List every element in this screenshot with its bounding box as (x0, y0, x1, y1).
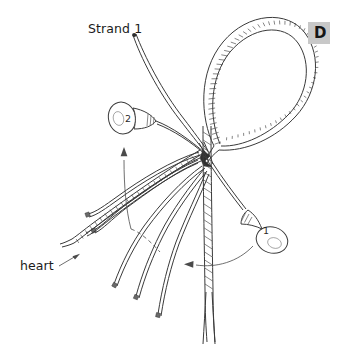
panel-letter-text: D (314, 24, 326, 42)
strand-e-end (156, 313, 161, 318)
strand-one-label: Strand 1 (88, 21, 142, 36)
figure-panel-d: 2 1 (0, 0, 345, 349)
anchor-1-number: 1 (263, 225, 269, 236)
anchor-2-number: 2 (125, 113, 131, 124)
panel-letter-badge: D (308, 22, 330, 44)
suture-diagram-canvas: 2 1 (0, 0, 345, 349)
heart-label: heart (20, 258, 54, 273)
canvas-background (0, 0, 345, 349)
